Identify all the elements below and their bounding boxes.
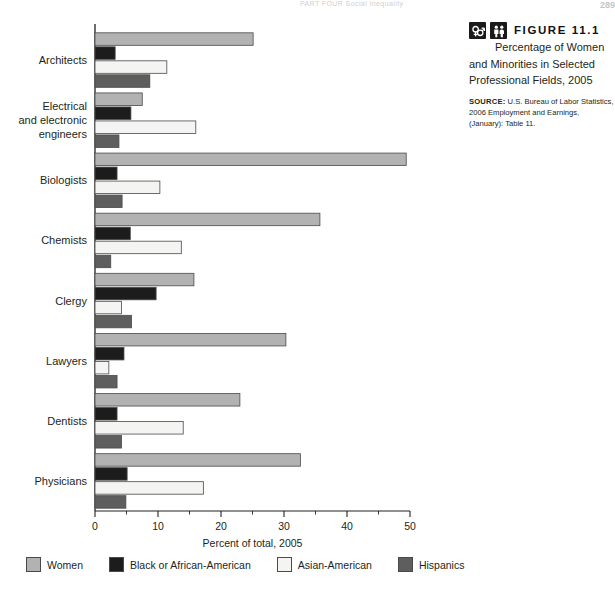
bar xyxy=(95,33,253,46)
caption-source: SOURCE: U.S. Bureau of Labor Statistics,… xyxy=(469,96,615,129)
legend-swatch xyxy=(398,557,413,572)
category-label: Physicians xyxy=(34,475,87,487)
chart-container: ArchitectsElectricaland electronicengine… xyxy=(0,16,460,536)
category-label: Dentists xyxy=(47,415,87,427)
bar xyxy=(95,121,196,134)
x-tick-label: 20 xyxy=(215,520,227,532)
bar xyxy=(95,361,109,374)
bar xyxy=(95,422,183,435)
bar xyxy=(95,135,119,148)
bar xyxy=(95,213,320,226)
bar xyxy=(95,273,194,286)
category-label: Clergy xyxy=(55,295,87,307)
bar-group xyxy=(95,33,253,88)
bar xyxy=(95,454,300,467)
bar xyxy=(95,255,111,268)
legend-label: Asian-American xyxy=(298,559,372,571)
bar xyxy=(95,315,132,328)
x-axis-title: Percent of total, 2005 xyxy=(203,537,303,549)
running-header: PART FOUR Social Inequality 289 xyxy=(300,0,615,12)
chart-legend: WomenBlack or African-AmericanAsian-Amer… xyxy=(26,557,446,572)
legend-item[interactable]: Black or African-American xyxy=(109,557,251,572)
bar-group xyxy=(95,153,406,208)
people-icon xyxy=(490,22,507,39)
bar xyxy=(95,47,115,60)
bar xyxy=(95,375,117,388)
category-label: Architects xyxy=(39,54,88,66)
category-label: and electronic xyxy=(19,114,88,126)
legend-swatch xyxy=(26,557,41,572)
bar xyxy=(95,241,181,254)
bar xyxy=(95,394,240,407)
bar xyxy=(95,227,130,240)
bar xyxy=(95,195,122,208)
bar xyxy=(95,75,150,88)
legend-item[interactable]: Hispanics xyxy=(398,557,465,572)
bar xyxy=(95,333,286,346)
legend-swatch xyxy=(109,557,124,572)
bar-group xyxy=(95,394,240,449)
legend-item[interactable]: Asian-American xyxy=(277,557,372,572)
bar xyxy=(95,107,131,120)
bar xyxy=(95,468,127,481)
bar-chart: ArchitectsElectricaland electronicengine… xyxy=(0,16,460,556)
bar-group xyxy=(95,333,286,388)
bar xyxy=(95,301,121,314)
x-tick-label: 10 xyxy=(152,520,164,532)
bar xyxy=(95,408,117,421)
figure-page: PART FOUR Social Inequality 289 xyxy=(0,0,615,609)
bar-group xyxy=(95,213,320,268)
category-label: Chemists xyxy=(41,234,87,246)
bar xyxy=(95,287,156,300)
legend-label: Hispanics xyxy=(419,559,465,571)
source-label: SOURCE: xyxy=(469,97,505,106)
legend-label: Black or African-American xyxy=(130,559,251,571)
bar-group xyxy=(95,93,196,148)
bar-group xyxy=(95,454,300,509)
gender-symbols-icon xyxy=(469,22,486,39)
figure-caption: FIGURE 11.1 Percentage of Women and Mino… xyxy=(469,22,615,129)
legend-label: Women xyxy=(47,559,83,571)
x-tick-label: 30 xyxy=(278,520,290,532)
page-number: 289 xyxy=(600,0,615,10)
bar xyxy=(95,496,126,509)
caption-title: Percentage of Women and Minorities in Se… xyxy=(469,39,615,89)
bar xyxy=(95,93,142,106)
bar xyxy=(95,482,203,495)
category-label: Lawyers xyxy=(46,355,87,367)
bar-group xyxy=(95,273,194,328)
figure-label: FIGURE 11.1 xyxy=(514,22,600,36)
legend-item[interactable]: Women xyxy=(26,557,83,572)
bar xyxy=(95,436,121,449)
category-label: Biologists xyxy=(40,174,88,186)
bar xyxy=(95,167,117,180)
running-header-text: PART FOUR Social Inequality xyxy=(300,0,403,7)
x-tick-label: 40 xyxy=(341,520,353,532)
bar xyxy=(95,153,406,166)
x-tick-label: 0 xyxy=(92,520,98,532)
x-tick-label: 50 xyxy=(404,520,416,532)
bar xyxy=(95,347,124,360)
caption-title-lead: Percentage of xyxy=(495,41,564,53)
caption-header: FIGURE 11.1 xyxy=(469,22,615,39)
category-label: engineers xyxy=(39,128,88,140)
category-label: Electrical xyxy=(42,100,87,112)
bar xyxy=(95,181,160,194)
bar xyxy=(95,61,167,74)
legend-swatch xyxy=(277,557,292,572)
